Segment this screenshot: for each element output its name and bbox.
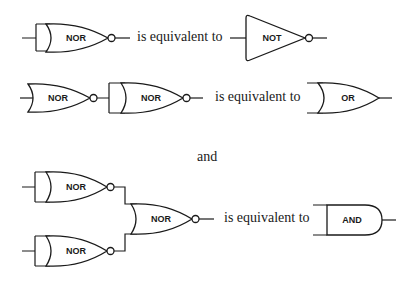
gate-label: NOR bbox=[66, 182, 87, 192]
row2-or-gate: OR bbox=[307, 83, 392, 113]
inversion-bubble-icon bbox=[107, 248, 114, 255]
row1-nor-gate: NOR bbox=[22, 24, 130, 52]
and-input-wires bbox=[313, 205, 327, 235]
gate-label: NOR bbox=[66, 33, 87, 43]
row3-top-nor-input-wires bbox=[22, 172, 50, 202]
row3-bottom-nor-gate: NOR bbox=[22, 234, 137, 266]
nor-equivalence-diagram: NOR NOT NOR NOR OR bbox=[0, 0, 417, 286]
row2-equivalence-text: is equivalent to bbox=[215, 90, 301, 104]
row1-equivalence-text: is equivalent to bbox=[137, 30, 223, 44]
gate-label: NOR bbox=[151, 214, 172, 224]
row3-final-nor-gate: NOR bbox=[131, 204, 214, 234]
and-separator-text: and bbox=[197, 150, 217, 164]
inversion-bubble-icon bbox=[183, 95, 190, 102]
row3-bottom-nor-input-wires bbox=[22, 236, 50, 266]
row3-equivalence-text: is equivalent to bbox=[224, 211, 310, 225]
row3-top-nor-gate: NOR bbox=[22, 172, 137, 204]
gate-label: OR bbox=[341, 93, 355, 103]
row2-second-nor-input-wires bbox=[97, 83, 125, 113]
row3-bottom-nor-output-wire bbox=[114, 234, 137, 251]
gate-label: NOR bbox=[48, 93, 69, 103]
row1-not-gate: NOT bbox=[230, 15, 327, 60]
row3-top-nor-output-wire bbox=[114, 187, 137, 204]
row2-first-nor-gate: NOR bbox=[20, 84, 97, 112]
gate-label: NOR bbox=[141, 93, 162, 103]
gate-label: NOT bbox=[263, 33, 283, 43]
inversion-bubble-icon bbox=[108, 35, 115, 42]
gate-label: NOR bbox=[66, 246, 87, 256]
gate-label: AND bbox=[342, 215, 362, 225]
inversion-bubble-icon bbox=[192, 216, 199, 223]
row2-second-nor-gate: NOR bbox=[97, 83, 203, 113]
row3-and-gate: AND bbox=[313, 205, 396, 235]
inversion-bubble-icon bbox=[107, 184, 114, 191]
inversion-bubble-icon bbox=[306, 35, 313, 42]
row1-nor-input-wires bbox=[22, 24, 50, 51]
inversion-bubble-icon bbox=[90, 95, 97, 102]
